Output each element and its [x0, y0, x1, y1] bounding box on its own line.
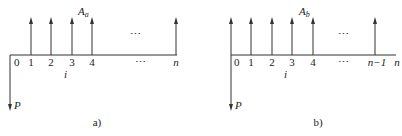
arrow-up-icon — [29, 17, 33, 24]
tick-label-b-3: 3 — [289, 56, 295, 68]
present-label-a: P — [13, 99, 21, 111]
caption-a: a) — [93, 116, 102, 129]
arrow-up-icon — [249, 17, 253, 24]
tick-label-b-4: 4 — [310, 56, 316, 68]
tick-label-a-4: 4 — [89, 56, 95, 68]
tick-label-a-n: n — [173, 56, 179, 68]
tick-label-b-1: 1 — [248, 56, 254, 68]
tick-label-a-1: 1 — [28, 56, 34, 68]
annuity-label-b: Ab — [298, 5, 310, 19]
annuity-arrows-b — [229, 17, 377, 55]
diagram-b: Ab ⋯ 0 1 2 3 4 ⋯ n−1 n i P b) — [229, 5, 400, 129]
arrow-up-icon — [49, 17, 53, 24]
ellipsis-axis-a: ⋯ — [135, 56, 146, 68]
arrow-down-icon — [229, 104, 233, 111]
arrow-down-icon — [8, 104, 12, 111]
ellipsis-top-b: ⋯ — [338, 28, 349, 40]
tick-label-b-n: n — [394, 56, 400, 68]
caption-b: b) — [313, 116, 323, 129]
tick-label-a-0: 0 — [14, 56, 20, 68]
arrow-up-icon — [311, 17, 315, 24]
arrow-up-icon — [174, 17, 178, 24]
tick-label-a-2: 2 — [48, 56, 54, 68]
arrow-up-icon — [90, 17, 94, 24]
present-label-b: P — [234, 99, 242, 111]
cash-flow-diagrams: Aa ⋯ 0 1 2 3 4 ⋯ n i P a) Ab ⋯ 0 1 2 3 4… — [0, 0, 402, 136]
arrow-up-icon — [373, 17, 377, 24]
tick-label-b-2: 2 — [269, 56, 275, 68]
rate-label-a: i — [64, 68, 67, 80]
tick-label-b-0: 0 — [234, 56, 240, 68]
arrow-up-icon — [70, 17, 74, 24]
diagram-a: Aa ⋯ 0 1 2 3 4 ⋯ n i P a) — [8, 5, 179, 129]
arrow-up-icon — [290, 17, 294, 24]
annuity-label-a: Aa — [77, 5, 89, 19]
arrow-up-icon — [229, 17, 233, 24]
ellipsis-axis-b: ⋯ — [338, 56, 349, 68]
tick-label-a-3: 3 — [69, 56, 75, 68]
annuity-arrows-a — [29, 17, 178, 55]
ellipsis-top-a: ⋯ — [130, 28, 141, 40]
rate-label-b: i — [284, 68, 287, 80]
tick-label-b-n-minus-1: n−1 — [368, 56, 386, 68]
arrow-up-icon — [270, 17, 274, 24]
